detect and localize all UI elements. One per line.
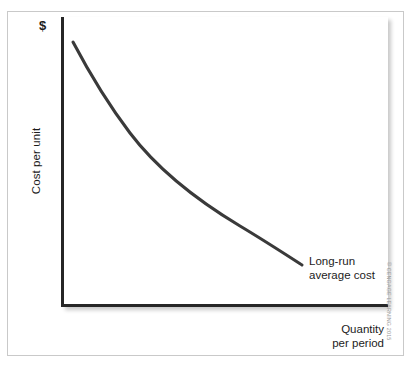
curve-label: Long-run average cost: [309, 254, 375, 282]
curve-label-line-1: Long-run: [309, 254, 375, 268]
y-axis-title: Cost per unit: [30, 101, 42, 221]
currency-symbol-label: $: [39, 19, 46, 32]
curve-label-line-2: average cost: [309, 268, 375, 282]
chart-graphic: [0, 0, 412, 365]
x-axis-title-line-2: per period: [250, 336, 384, 350]
long-run-average-cost-curve: [73, 42, 302, 265]
x-axis-title-line-1: Quantity: [250, 322, 384, 336]
figure-container: $ Cost per unit Quantity per period Long…: [0, 0, 412, 365]
x-axis-title: Quantity per period: [250, 322, 384, 350]
publisher-credit: © CENGAGE LEARNING 2015: [386, 262, 392, 362]
